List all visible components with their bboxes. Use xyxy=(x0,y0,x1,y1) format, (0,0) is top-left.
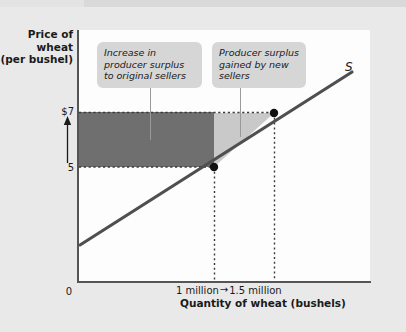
y-tick-label-5: 5 xyxy=(50,162,74,173)
callout-leader-original-sellers xyxy=(150,85,151,140)
price-increase-arrow xyxy=(64,116,71,163)
top-band xyxy=(0,0,406,7)
y-axis-title: Price of wheat (per bushel) xyxy=(0,28,73,66)
y-tick-label-7: $7 xyxy=(50,106,74,117)
y-axis-line xyxy=(77,30,79,283)
producer-surplus-chart: Price of wheat (per bushel) $7 5 0 1 mil… xyxy=(0,0,406,332)
callout-original-sellers: Increase in producer surplus to original… xyxy=(97,42,202,88)
x-tick-label-1-million: 1 million xyxy=(176,285,219,296)
y-axis-title-line-1: Price of xyxy=(0,28,73,41)
callout-leader-new-sellers xyxy=(240,85,241,137)
x-axis-title: Quantity of wheat (bushels) xyxy=(180,297,400,309)
callout-new-sellers: Producer surplus gained by new sellers xyxy=(212,42,306,88)
y-axis-title-line-3: (per bushel) xyxy=(0,53,73,66)
x-quantity-labels: 1 million→1.5 million xyxy=(176,285,282,296)
supply-curve-label: S xyxy=(345,60,353,74)
top-band-inner xyxy=(0,0,84,7)
x-tick-label-1-5-million: 1.5 million xyxy=(229,285,281,296)
y-axis-title-line-2: wheat xyxy=(0,41,73,54)
origin-label: 0 xyxy=(58,286,72,297)
region-original-sellers xyxy=(79,112,214,167)
quantity-change-arrow-icon: → xyxy=(219,284,229,295)
x-axis-line xyxy=(77,281,371,283)
